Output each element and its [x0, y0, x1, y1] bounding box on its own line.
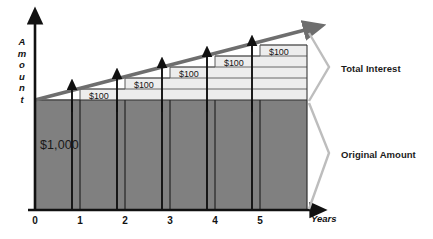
- y-axis-label-letter: u: [14, 71, 30, 83]
- interest-step-label: $100: [89, 92, 109, 101]
- principal-area: [35, 100, 307, 210]
- principal-amount-label: $1,000: [40, 138, 79, 152]
- callout-brace-principal: [309, 103, 329, 209]
- compound-interest-chart: A m o u n t $100 $100 $100 $100 $100 $1,…: [0, 0, 433, 239]
- x-axis-tick-1: 1: [72, 216, 88, 226]
- interest-area: [35, 45, 307, 100]
- callout-label-total-interest: Total Interest: [341, 63, 401, 74]
- interest-step-label: $100: [224, 59, 244, 68]
- x-axis-tick-4: 4: [207, 216, 223, 226]
- callout-label-original-amount: Original Amount: [341, 149, 416, 160]
- x-axis-tick-2: 2: [117, 216, 133, 226]
- interest-step-label: $100: [179, 70, 199, 79]
- y-axis-label-letter: n: [14, 82, 30, 94]
- x-axis-tick-5: 5: [252, 216, 268, 226]
- callout-brace-interest: [309, 33, 329, 101]
- y-axis-label-letter: o: [14, 59, 30, 71]
- x-axis-tick-3: 3: [162, 216, 178, 226]
- x-axis-tick-0: 0: [27, 216, 43, 226]
- y-axis-label-letter: t: [14, 94, 30, 106]
- y-axis-label: A m o u n t: [14, 36, 30, 106]
- interest-step-label: $100: [134, 81, 154, 90]
- x-axis-label: Years: [311, 214, 337, 224]
- interest-step-label: $100: [269, 48, 289, 57]
- y-axis-label-letter: m: [14, 48, 30, 60]
- y-axis-label-letter: A: [14, 36, 30, 48]
- chart-canvas: [0, 0, 433, 239]
